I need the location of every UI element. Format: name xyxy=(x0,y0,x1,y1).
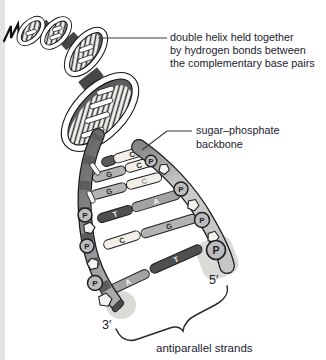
base-pill: A xyxy=(131,189,182,213)
dna-diagram-canvas: C G C G C T xyxy=(0,0,326,360)
phosphate-letter: P xyxy=(148,157,154,166)
phosphate-letter: P xyxy=(92,279,98,288)
page-edge-strip xyxy=(0,0,5,360)
dna-structure-figure: C G C G C T xyxy=(0,0,326,360)
phosphate-letter: P xyxy=(178,185,184,194)
base-pill: T xyxy=(149,243,204,275)
base-pill: G xyxy=(140,213,198,239)
phosphate-letter: P xyxy=(199,216,205,225)
phosphate-letter: P xyxy=(82,211,88,220)
base-pill: T xyxy=(96,204,133,224)
five-prime-label: 5′ xyxy=(209,273,219,287)
three-prime-label: 3′ xyxy=(102,318,112,332)
double-helix-art xyxy=(4,14,148,161)
phosphate-icon: P xyxy=(174,182,188,196)
base-pill: C xyxy=(125,172,162,191)
phosphate-icon: P xyxy=(80,239,94,253)
helix-label-line1: double helix held together xyxy=(170,31,294,43)
helix-label-line3: the complementary base pairs xyxy=(170,57,315,69)
phosphate-letter: P xyxy=(212,244,219,256)
helix-label-line2: by hydrogen bonds between xyxy=(170,44,306,56)
base-pair-rungs: C G C G C T xyxy=(90,144,203,296)
phosphate-icon: P xyxy=(195,213,210,228)
backbone-label-line1: sugar–phosphate xyxy=(196,124,279,136)
base-pill: G xyxy=(90,182,127,201)
unwound-ladder: C G C G C T xyxy=(78,135,242,319)
phosphate-icon: P xyxy=(88,276,103,291)
phosphate-icon: P xyxy=(78,208,92,222)
base-pill: C xyxy=(103,230,142,251)
phosphate-letter: P xyxy=(84,242,90,251)
antiparallel-strands-label: antiparallel strands xyxy=(156,342,253,354)
phosphate-icon: P xyxy=(145,155,157,167)
backbone-label-line2: backbone xyxy=(196,138,243,150)
phosphate-icon: P xyxy=(207,241,226,260)
